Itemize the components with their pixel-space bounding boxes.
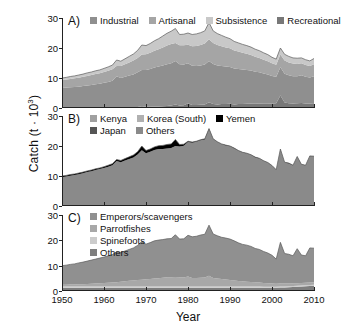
panel-c-legend-item[interactable]: Others <box>90 247 129 258</box>
x-tick-mark <box>230 104 231 108</box>
x-tick-mark <box>272 287 273 291</box>
x-tick-mark <box>230 202 231 206</box>
panel-a-y-axis <box>62 18 63 108</box>
x-tick-mark <box>272 202 273 206</box>
panel-c-legend-row: Emperors/scavengers <box>90 210 199 222</box>
y-tick-mark <box>59 146 62 147</box>
legend-swatch-icon <box>90 17 97 24</box>
panel-b-legend-row: KenyaKorea (South)Yemen <box>90 112 262 124</box>
legend-swatch-icon <box>137 115 144 122</box>
legend-label: Others <box>146 125 175 136</box>
y-tick-label: 10 <box>47 171 58 182</box>
x-tick-mark <box>230 287 231 291</box>
y-tick-mark <box>59 108 62 109</box>
legend-swatch-icon <box>90 225 97 232</box>
legend-swatch-icon <box>206 17 213 24</box>
x-tick-label: 1980 <box>177 294 198 305</box>
x-tick-mark <box>314 202 315 206</box>
y-tick-mark <box>59 48 62 49</box>
panel-b-tag: B) <box>68 112 80 126</box>
legend-swatch-icon <box>90 249 97 256</box>
panel-c-legend-item[interactable]: Emperors/scavengers <box>90 211 192 222</box>
panel-a-area-chart <box>62 18 314 108</box>
legend-swatch-icon <box>90 127 97 134</box>
panel-c-legend: Emperors/scavengersParrotfishesSpinefoot… <box>90 210 199 258</box>
legend-swatch-icon <box>149 17 156 24</box>
y-axis-label: Catch (t · 103) <box>26 79 41 189</box>
x-tick-label: 1960 <box>93 294 114 305</box>
x-tick-label: 2000 <box>261 294 282 305</box>
y-tick-label: 30 <box>47 111 58 122</box>
panel-a-legend-item[interactable]: Recreational <box>277 15 340 26</box>
y-tick-label: 30 <box>47 210 58 221</box>
y-axis-label-exponent: 3 <box>26 99 35 104</box>
panel-c-legend-row: Others <box>90 246 199 258</box>
panel-b-y-axis <box>62 116 63 206</box>
x-tick-label: 1970 <box>135 294 156 305</box>
panel-b-legend-item[interactable]: Yemen <box>216 113 255 124</box>
x-tick-mark <box>314 104 315 108</box>
panel-b-legend-item[interactable]: Others <box>136 125 175 136</box>
x-tick-mark <box>62 202 63 206</box>
panel-b-legend-row: JapanOthers <box>90 124 262 136</box>
x-tick-mark <box>104 202 105 206</box>
legend-swatch-icon <box>90 213 97 220</box>
x-tick-label: 1990 <box>219 294 240 305</box>
legend-label: Korea (South) <box>147 113 206 124</box>
y-tick-label: 20 <box>47 43 58 54</box>
panel-b-legend: KenyaKorea (South)YemenJapanOthers <box>90 112 262 136</box>
y-tick-mark <box>59 176 62 177</box>
panel-a: 0102030 A) IndustrialArtisanalSubsistenc… <box>62 18 314 108</box>
panel-c-legend-row: Spinefoots <box>90 234 199 246</box>
panel-c-legend-item[interactable]: Spinefoots <box>90 235 145 246</box>
legend-label: Japan <box>100 125 126 136</box>
panel-c-y-axis <box>62 215 63 291</box>
panel-c: 0102030 1950196019701980199020002010 C) … <box>62 215 314 291</box>
legend-label: Subsistence <box>216 15 268 26</box>
panel-a-legend-item[interactable]: Subsistence <box>206 15 268 26</box>
x-tick-mark <box>104 104 105 108</box>
panel-b-legend-item[interactable]: Korea (South) <box>137 113 206 124</box>
panel-c-legend-item[interactable]: Parrotfishes <box>90 223 151 234</box>
panel-b-legend-item[interactable]: Japan <box>90 125 126 136</box>
legend-label: Recreational <box>287 15 340 26</box>
y-tick-mark <box>59 116 62 117</box>
x-tick-mark <box>314 287 315 291</box>
x-tick-mark <box>62 104 63 108</box>
panel-c-legend-row: Parrotfishes <box>90 222 199 234</box>
panel-b-legend-item[interactable]: Kenya <box>90 113 127 124</box>
x-tick-mark <box>62 287 63 291</box>
legend-swatch-icon <box>90 237 97 244</box>
legend-label: Others <box>100 247 129 258</box>
legend-label: Kenya <box>100 113 127 124</box>
y-tick-mark <box>59 291 62 292</box>
panel-c-tag: C) <box>68 211 81 225</box>
legend-swatch-icon <box>216 115 223 122</box>
x-tick-mark <box>146 287 147 291</box>
legend-label: Emperors/scavengers <box>100 211 192 222</box>
panel-a-legend: IndustrialArtisanalSubsistenceRecreation… <box>90 14 345 26</box>
x-tick-mark <box>188 287 189 291</box>
y-tick-label: 10 <box>47 260 58 271</box>
panel-a-tag: A) <box>68 14 80 28</box>
y-tick-label: 30 <box>47 13 58 24</box>
y-tick-label: 10 <box>47 73 58 84</box>
y-tick-mark <box>59 215 62 216</box>
legend-label: Parrotfishes <box>100 223 151 234</box>
legend-swatch-icon <box>277 17 284 24</box>
x-tick-mark <box>146 104 147 108</box>
legend-swatch-icon <box>90 115 97 122</box>
x-tick-mark <box>188 202 189 206</box>
legend-swatch-icon <box>136 127 143 134</box>
x-tick-mark <box>188 104 189 108</box>
y-tick-label: 20 <box>47 235 58 246</box>
panel-b: 0102030 B) KenyaKorea (South)YemenJapanO… <box>62 116 314 206</box>
panel-a-legend-item[interactable]: Industrial <box>90 15 139 26</box>
x-tick-label: 2010 <box>303 294 324 305</box>
x-axis-label: Year <box>62 310 314 324</box>
legend-label: Industrial <box>100 15 139 26</box>
panel-a-legend-item[interactable]: Artisanal <box>149 15 196 26</box>
legend-label: Yemen <box>226 113 255 124</box>
y-tick-mark <box>59 18 62 19</box>
